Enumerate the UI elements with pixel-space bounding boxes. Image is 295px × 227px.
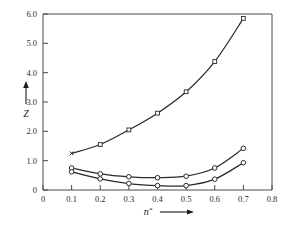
- series-middle-curve: [69, 146, 245, 180]
- series-line-upper-curve: [72, 18, 244, 153]
- marker-middle-curve-4: [184, 174, 189, 179]
- marker-middle-curve-1: [98, 172, 103, 177]
- marker-lower-curve-5: [212, 177, 217, 182]
- marker-upper-curve-1: [98, 143, 102, 147]
- series-line-middle-curve: [72, 148, 244, 177]
- chart-svg: 01.02.03.04.05.06.0 00.10.20.30.40.50.60…: [0, 0, 295, 227]
- y-tick-label-2: 2.0: [26, 126, 37, 136]
- y-axis-title: Z: [23, 108, 29, 119]
- plot-frame: [43, 14, 272, 190]
- y-tick-label-1: 1.0: [26, 156, 37, 166]
- marker-upper-curve-4: [184, 90, 188, 94]
- marker-upper-curve-2: [127, 128, 131, 132]
- x-tick-label-2: 0.2: [95, 194, 106, 204]
- marker-upper-curve-3: [156, 111, 160, 115]
- x-axis-tick-labels: 00.10.20.30.40.50.60.70.8: [41, 194, 277, 204]
- marker-lower-curve-0: [69, 170, 74, 175]
- marker-upper-curve-5: [213, 60, 217, 64]
- series-upper-curve: [70, 17, 246, 156]
- marker-middle-curve-6: [241, 146, 246, 151]
- marker-middle-curve-2: [127, 175, 132, 180]
- x-tick-label-4: 0.4: [152, 194, 163, 204]
- y-tick-label-5: 5.0: [26, 38, 37, 48]
- y-axis-arrow-head-icon: [23, 81, 29, 88]
- series-lower-curve: [69, 160, 245, 187]
- y-axis-tick-labels: 01.02.03.04.05.06.0: [26, 9, 37, 195]
- y-tick-label-3: 3.0: [26, 97, 37, 107]
- marker-lower-curve-2: [127, 181, 132, 186]
- marker-lower-curve-1: [98, 177, 103, 182]
- x-tick-label-1: 0.1: [66, 194, 77, 204]
- x-tick-label-0: 0: [41, 194, 45, 204]
- chart-figure: 01.02.03.04.05.06.0 00.10.20.30.40.50.60…: [0, 0, 295, 227]
- data-series-group: [69, 17, 245, 188]
- marker-upper-curve-6: [241, 17, 245, 21]
- y-tick-label-6: 6.0: [26, 9, 37, 19]
- x-tick-label-5: 0.5: [181, 194, 192, 204]
- x-axis-arrow-head-icon: [187, 209, 194, 214]
- marker-lower-curve-6: [241, 160, 246, 165]
- marker-lower-curve-4: [184, 183, 189, 188]
- x-axis-label-group: n*: [144, 206, 194, 217]
- y-tick-label-4: 4.0: [26, 68, 37, 78]
- x-tick-label-8: 0.8: [267, 194, 278, 204]
- marker-lower-curve-3: [155, 183, 160, 188]
- y-tick-label-0: 0: [33, 185, 37, 195]
- x-tick-label-6: 0.6: [209, 194, 220, 204]
- marker-middle-curve-3: [155, 175, 160, 180]
- marker-middle-curve-5: [212, 166, 217, 171]
- x-tick-label-3: 0.3: [124, 194, 135, 204]
- x-tick-label-7: 0.7: [238, 194, 249, 204]
- x-axis-title: n*: [144, 206, 153, 217]
- y-axis-ticks: [43, 14, 48, 190]
